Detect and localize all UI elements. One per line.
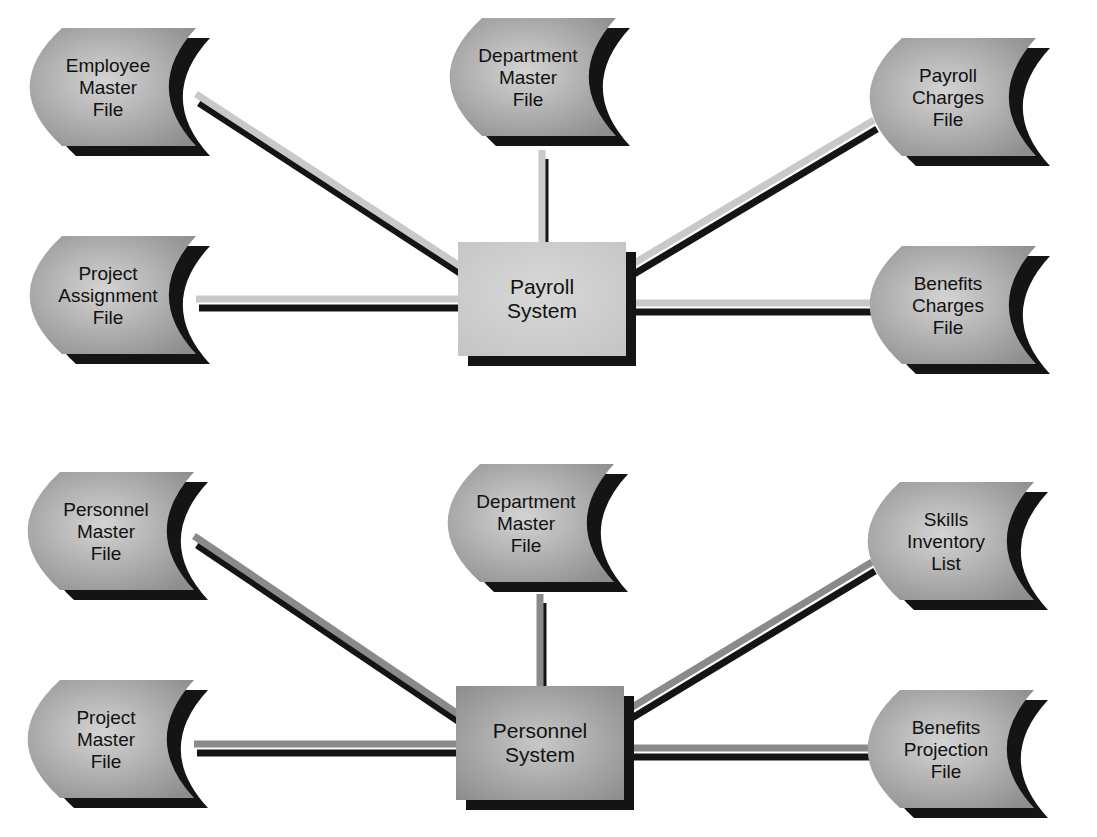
node-label-line: Department: [478, 45, 578, 66]
node-label-line: Charges: [912, 87, 984, 108]
personnel-connector: [540, 594, 543, 697]
file-node-department-master-file[interactable]: DepartmentMasterFile: [450, 18, 630, 146]
payroll-connector: [542, 150, 545, 253]
node-label-line: System: [505, 743, 575, 766]
node-label-line: Benefits: [912, 717, 981, 738]
file-node-payroll-charges-file[interactable]: PayrollChargesFile: [870, 38, 1050, 166]
file-node-skills-inventory-list[interactable]: SkillsInventoryList: [868, 482, 1048, 610]
file-node-benefits-charges-file[interactable]: BenefitsChargesFile: [870, 246, 1050, 374]
payroll-connector: [626, 303, 877, 312]
file-node-employee-master-file[interactable]: EmployeeMasterFile: [30, 28, 210, 156]
node-label-line: Skills: [924, 509, 968, 530]
node-label-line: File: [513, 89, 544, 110]
file-node-project-assignment-file[interactable]: ProjectAssignmentFile: [30, 236, 210, 364]
node-label-line: System: [507, 299, 577, 322]
payroll-connector: [196, 299, 463, 308]
node-label-line: Inventory: [907, 531, 986, 552]
node-label-line: Assignment: [58, 285, 158, 306]
file-node-department-master-file-2[interactable]: DepartmentMasterFile: [448, 464, 628, 592]
personnel-connector: [194, 744, 461, 753]
node-label-line: Payroll: [510, 275, 574, 298]
node-label-line: Personnel: [493, 719, 588, 742]
file-node-personnel-master-file[interactable]: PersonnelMasterFile: [28, 472, 208, 600]
node-label-line: Master: [77, 729, 136, 750]
personnel-connector: [194, 536, 461, 723]
node-label-line: Master: [77, 521, 136, 542]
node-label-line: List: [931, 553, 961, 574]
node-label-line: File: [93, 307, 124, 328]
node-label-line: Employee: [66, 55, 151, 76]
node-label-line: File: [91, 543, 122, 564]
node-label-line: Projection: [904, 739, 989, 760]
node-label-line: File: [933, 317, 964, 338]
node-label-line: Project: [78, 263, 138, 284]
node-label-line: Master: [497, 513, 556, 534]
node-label-line: Charges: [912, 295, 984, 316]
node-label-line: Project: [76, 707, 136, 728]
node-label-line: Master: [499, 67, 558, 88]
node-label-line: File: [93, 99, 124, 120]
node-label-line: Benefits: [914, 273, 983, 294]
personnel-connector: [624, 748, 875, 757]
payroll-connector: [626, 120, 877, 277]
personnel-system-box[interactable]: PersonnelSystem: [456, 686, 634, 810]
payroll-connector: [196, 94, 463, 275]
payroll-system-box[interactable]: PayrollSystem: [458, 242, 636, 366]
node-label-line: File: [931, 761, 962, 782]
node-label-line: File: [511, 535, 542, 556]
file-node-project-master-file[interactable]: ProjectMasterFile: [28, 680, 208, 808]
node-label-line: Master: [79, 77, 138, 98]
node-label-line: Personnel: [63, 499, 149, 520]
node-label-line: Payroll: [919, 65, 977, 86]
personnel-connector: [624, 562, 875, 721]
system-file-diagram: EmployeeMasterFileDepartmentMasterFilePa…: [0, 0, 1097, 837]
node-label-line: File: [91, 751, 122, 772]
node-label-line: File: [933, 109, 964, 130]
file-node-benefits-projection-file[interactable]: BenefitsProjectionFile: [868, 690, 1048, 818]
node-label-line: Department: [476, 491, 576, 512]
